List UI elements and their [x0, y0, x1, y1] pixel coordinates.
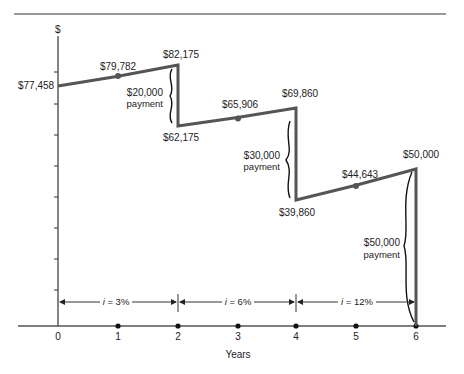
- label-65906: $65,906: [222, 99, 259, 110]
- svg-text:$20,000: $20,000: [127, 87, 164, 98]
- svg-text:payment: payment: [364, 249, 401, 260]
- svg-text:i = 6%: i = 6%: [225, 296, 252, 307]
- label-50000: $50,000: [403, 149, 440, 160]
- svg-text:payment: payment: [244, 161, 281, 172]
- label-62175: $62,175: [163, 132, 200, 143]
- label-69860: $69,860: [282, 88, 319, 99]
- payment-brace-2: $30,000 payment: [244, 121, 290, 198]
- rate-period-1: i = 3%: [60, 296, 176, 307]
- label-79782: $79,782: [100, 61, 137, 72]
- svg-text:4: 4: [293, 331, 299, 342]
- svg-text:0: 0: [55, 331, 61, 342]
- payment-brace-1: $20,000 payment: [127, 69, 172, 123]
- svg-text:i = 12%: i = 12%: [341, 296, 374, 307]
- svg-text:i = 3%: i = 3%: [103, 296, 130, 307]
- chart-canvas: $ 0 1 2 3 4 5 6 Years $77,458 $7: [0, 0, 464, 374]
- svg-text:3: 3: [235, 331, 241, 342]
- label-39860: $39,860: [279, 207, 316, 218]
- x-tick-labels: 0 1 2 3 4 5 6: [55, 331, 419, 342]
- svg-text:5: 5: [353, 331, 359, 342]
- label-77458: $77,458: [18, 80, 55, 91]
- rate-period-2: i = 6%: [180, 296, 294, 307]
- svg-text:2: 2: [175, 331, 181, 342]
- svg-text:payment: payment: [127, 98, 164, 109]
- value-labels: $77,458 $79,782 $82,175 $62,175 $65,906 …: [18, 49, 440, 218]
- rate-period-3: i = 12%: [298, 296, 414, 307]
- svg-text:1: 1: [115, 331, 121, 342]
- y-axis-label: $: [55, 24, 61, 35]
- svg-text:$50,000: $50,000: [364, 237, 401, 248]
- svg-text:6: 6: [413, 331, 419, 342]
- label-82175: $82,175: [163, 49, 200, 60]
- x-axis-label: Years: [225, 349, 250, 360]
- label-44643: $44,643: [342, 169, 379, 180]
- svg-text:$30,000: $30,000: [244, 150, 281, 161]
